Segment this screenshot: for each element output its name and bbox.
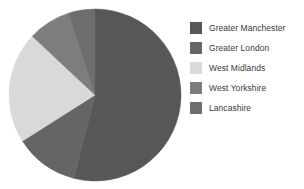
legend-item-west-midlands[interactable]: West Midlands — [190, 58, 304, 78]
legend-label: Greater London — [209, 43, 269, 53]
chart-legend: Greater ManchesterGreater LondonWest Mid… — [190, 18, 304, 118]
legend-swatch-greater-manchester — [190, 22, 202, 34]
legend-item-lancashire[interactable]: Lancashire — [190, 98, 304, 118]
legend-label: West Yorkshire — [209, 83, 266, 93]
pie-chart-plot-area — [0, 0, 186, 189]
legend-swatch-west-yorkshire — [190, 82, 202, 94]
legend-swatch-west-midlands — [190, 62, 202, 74]
legend-item-greater-manchester[interactable]: Greater Manchester — [190, 18, 304, 38]
legend-swatch-greater-london — [190, 42, 202, 54]
legend-item-greater-london[interactable]: Greater London — [190, 38, 304, 58]
legend-item-west-yorkshire[interactable]: West Yorkshire — [190, 78, 304, 98]
legend-label: Greater Manchester — [209, 23, 286, 33]
legend-label: West Midlands — [209, 63, 265, 73]
pie-chart-figure: Greater ManchesterGreater LondonWest Mid… — [0, 0, 304, 189]
legend-swatch-lancashire — [190, 102, 202, 114]
legend-label: Lancashire — [209, 103, 251, 113]
pie-chart-svg — [7, 7, 183, 183]
